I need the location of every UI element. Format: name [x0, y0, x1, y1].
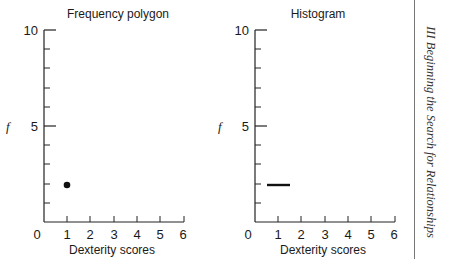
margin-rule — [414, 0, 415, 259]
svg-text:4: 4 — [133, 227, 140, 242]
frequency-polygon-chart: Frequency polygon 10 5 f 0 1 2 3 4 5 6 D… — [6, 7, 187, 257]
histogram-chart: Histogram 10 5 f 0 1 2 3 4 5 6 Dexterity… — [218, 7, 398, 257]
svg-text:5: 5 — [367, 227, 374, 242]
svg-text:3: 3 — [321, 227, 328, 242]
x-axis-label: Dexterity scores — [69, 243, 155, 257]
y-axis-label: f — [218, 119, 224, 134]
svg-text:6: 6 — [179, 227, 186, 242]
svg-text:1: 1 — [63, 227, 70, 242]
chart-title: Frequency polygon — [67, 7, 169, 21]
svg-text:3: 3 — [110, 227, 117, 242]
svg-text:5: 5 — [242, 119, 249, 134]
section-title: III Beginning the Search for Relationshi… — [423, 26, 438, 238]
svg-text:5: 5 — [156, 227, 163, 242]
running-header: III Beginning the Search for Relationshi… — [420, 4, 440, 259]
svg-text:2: 2 — [86, 227, 93, 242]
data-point — [64, 182, 71, 189]
svg-text:10: 10 — [235, 23, 249, 38]
svg-text:0: 0 — [244, 227, 251, 242]
svg-text:4: 4 — [344, 227, 351, 242]
y-tick-label-5: 5 — [31, 119, 38, 134]
y-axis-label: f — [6, 119, 12, 134]
y-tick-label-10: 10 — [24, 23, 38, 38]
chart-title: Histogram — [291, 7, 346, 21]
figure: Frequency polygon 10 5 f 0 1 2 3 4 5 6 D… — [0, 0, 449, 259]
x-axis-label: Dexterity scores — [280, 243, 366, 257]
svg-text:2: 2 — [297, 227, 304, 242]
svg-text:6: 6 — [390, 227, 397, 242]
svg-text:1: 1 — [274, 227, 281, 242]
svg-text:0: 0 — [33, 227, 40, 242]
